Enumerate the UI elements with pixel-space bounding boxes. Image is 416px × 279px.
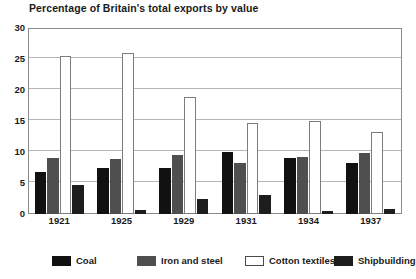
bar-cotton-1929[interactable] [184,97,196,214]
bar-cotton-1925[interactable] [122,53,134,214]
legend-item-iron[interactable]: Iron and steel [137,256,223,266]
bar-cotton-1921[interactable] [60,56,72,214]
y-tick-label: 15 [3,116,25,126]
bar-iron-1921[interactable] [47,158,59,214]
y-tick-label: 0 [3,209,25,219]
bar-group-1921 [35,28,84,214]
legend-swatch-shipbuilding-icon [334,256,353,266]
chart-legend: CoalIron and steelCotton textilesShipbui… [52,256,402,272]
x-tick-label-1929: 1929 [153,216,215,226]
bar-shipbuilding-1937[interactable] [384,209,396,214]
legend-swatch-coal-icon [52,256,71,266]
bar-iron-1934[interactable] [297,157,309,214]
legend-swatch-cotton-icon [245,256,264,266]
bars-layer [28,28,402,214]
x-tick-label-1931: 1931 [215,216,277,226]
bar-iron-1925[interactable] [110,159,122,214]
y-tick-label: 10 [3,147,25,157]
y-tick-label: 25 [3,54,25,64]
bar-coal-1929[interactable] [159,168,171,214]
legend-item-cotton[interactable]: Cotton textiles [245,256,335,266]
chart-title: Percentage of Britain's total exports by… [29,2,258,14]
bar-coal-1921[interactable] [35,172,47,214]
bar-coal-1931[interactable] [222,152,234,214]
bar-group-1934 [284,28,333,214]
bar-iron-1937[interactable] [359,153,371,214]
x-tick-label-1937: 1937 [340,216,402,226]
legend-label: Iron and steel [161,256,223,266]
bar-cotton-1931[interactable] [247,123,259,214]
legend-swatch-iron-icon [137,256,156,266]
bar-cotton-1937[interactable] [371,132,383,214]
bar-group-1931 [222,28,271,214]
bar-coal-1925[interactable] [97,168,109,215]
bar-shipbuilding-1934[interactable] [322,211,334,214]
legend-item-coal[interactable]: Coal [52,256,97,266]
legend-label: Coal [76,256,97,266]
bar-shipbuilding-1921[interactable] [72,185,84,214]
bar-iron-1929[interactable] [172,155,184,214]
bar-coal-1937[interactable] [346,163,358,214]
y-tick-label: 20 [3,85,25,95]
bar-cotton-1934[interactable] [309,121,321,214]
y-tick-label: 5 [3,178,25,188]
bar-shipbuilding-1929[interactable] [197,199,209,214]
bar-group-1929 [159,28,208,214]
bar-group-1925 [97,28,146,214]
bar-iron-1931[interactable] [234,163,246,214]
bar-coal-1934[interactable] [284,158,296,214]
legend-label: Shipbuilding [358,256,416,266]
x-tick-label-1934: 1934 [277,216,339,226]
y-tick-label: 30 [3,23,25,33]
bar-shipbuilding-1931[interactable] [259,195,271,214]
bar-shipbuilding-1925[interactable] [135,210,147,214]
bar-group-1937 [346,28,395,214]
y-axis: 302520151050 [0,28,25,214]
x-tick-label-1921: 1921 [28,216,90,226]
legend-item-shipbuilding[interactable]: Shipbuilding [334,256,416,266]
x-tick-label-1925: 1925 [90,216,152,226]
legend-label: Cotton textiles [269,256,335,266]
x-axis: 192119251929193119341937 [28,216,402,232]
